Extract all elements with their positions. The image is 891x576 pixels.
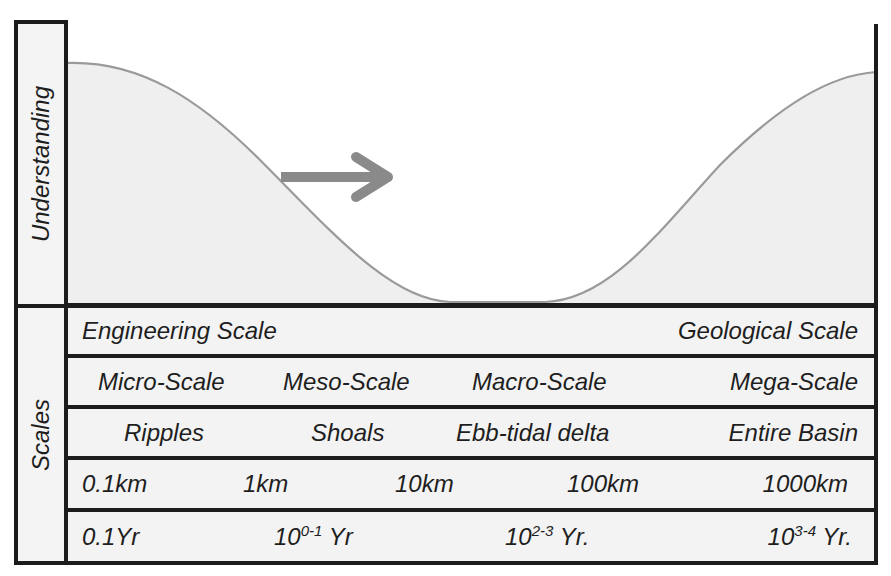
scales-label: Scales <box>27 398 55 470</box>
cell-engineering-scale: Engineering Scale <box>82 317 277 345</box>
understanding-label: Understanding <box>27 86 55 242</box>
row-scale-class: Micro-Scale Meso-Scale Macro-Scale Mega-… <box>64 354 878 409</box>
cell-1000km: 1000km <box>763 470 848 498</box>
row-scale-domain: Engineering Scale Geological Scale <box>64 304 878 358</box>
cell-shoals: Shoals <box>311 419 384 447</box>
row-spatial: 0.1km 1km 10km 100km 1000km <box>64 456 878 512</box>
row-morphology: Ripples Shoals Ebb-tidal delta Entire Ba… <box>64 405 878 460</box>
cell-0-1yr: 0.1Yr <box>82 523 139 551</box>
cell-100km: 100km <box>567 470 639 498</box>
cell-macro-scale: Macro-Scale <box>472 368 607 396</box>
row-temporal: 0.1Yr 100-1 Yr 102-3 Yr. 103-4 Yr. <box>64 508 878 565</box>
cell-meso-scale: Meso-Scale <box>283 368 410 396</box>
understanding-label-box: Understanding <box>14 20 68 308</box>
cell-ripples: Ripples <box>124 419 204 447</box>
cell-entire-basin: Entire Basin <box>729 419 858 447</box>
cell-10-2-3-yr: 102-3 Yr. <box>505 523 589 551</box>
cell-10-3-4-yr: 103-4 Yr. <box>768 523 852 551</box>
cell-ebb-tidal-delta: Ebb-tidal delta <box>456 419 609 447</box>
cell-0-1km: 0.1km <box>82 470 147 498</box>
cell-micro-scale: Micro-Scale <box>98 368 225 396</box>
cell-10km: 10km <box>395 470 454 498</box>
cell-geological-scale: Geological Scale <box>678 317 858 345</box>
cell-mega-scale: Mega-Scale <box>730 368 858 396</box>
cell-1km: 1km <box>243 470 288 498</box>
arrow-right-icon <box>281 157 388 197</box>
cell-10-0-1-yr: 100-1 Yr <box>274 523 353 551</box>
scales-label-box: Scales <box>14 304 68 565</box>
